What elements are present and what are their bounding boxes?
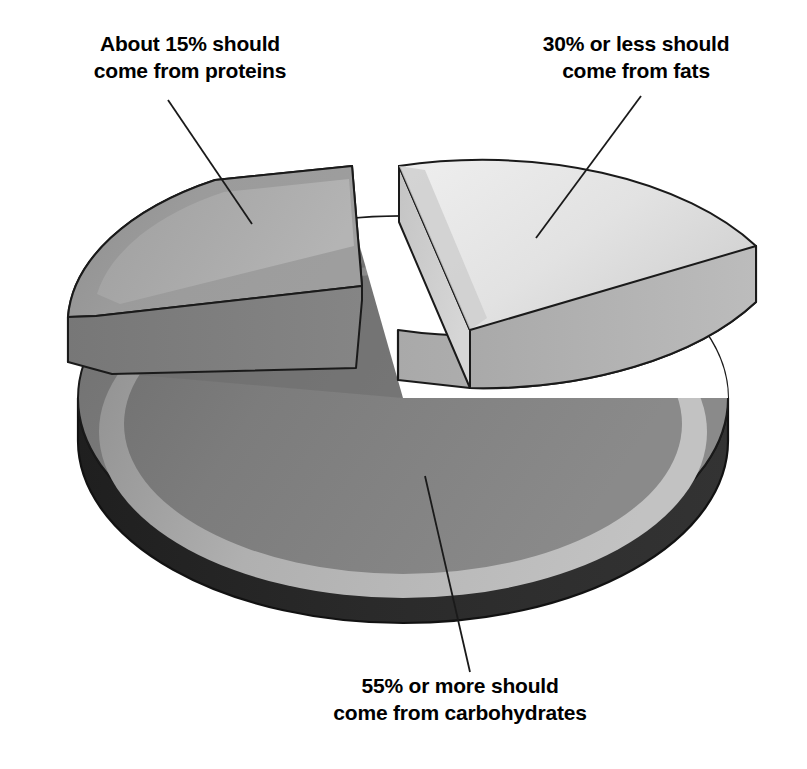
- pie-chart-figure: About 15% should come from proteins 30% …: [0, 0, 807, 769]
- callout-carbs-line1: 55% or more should: [361, 674, 558, 697]
- callout-carbs-line2: come from carbohydrates: [310, 699, 610, 726]
- callout-proteins-line1: About 15% should: [100, 32, 280, 55]
- callout-fats-line1: 30% or less should: [543, 32, 730, 55]
- callout-label-proteins: About 15% should come from proteins: [56, 30, 324, 84]
- callout-label-carbohydrates: 55% or more should come from carbohydrat…: [310, 672, 610, 726]
- pie-chart-svg: [0, 0, 807, 769]
- callout-label-fats: 30% or less should come from fats: [506, 30, 766, 84]
- pie-slice-proteins[interactable]: [68, 166, 362, 374]
- callout-proteins-line2: come from proteins: [56, 57, 324, 84]
- callout-fats-line2: come from fats: [506, 57, 766, 84]
